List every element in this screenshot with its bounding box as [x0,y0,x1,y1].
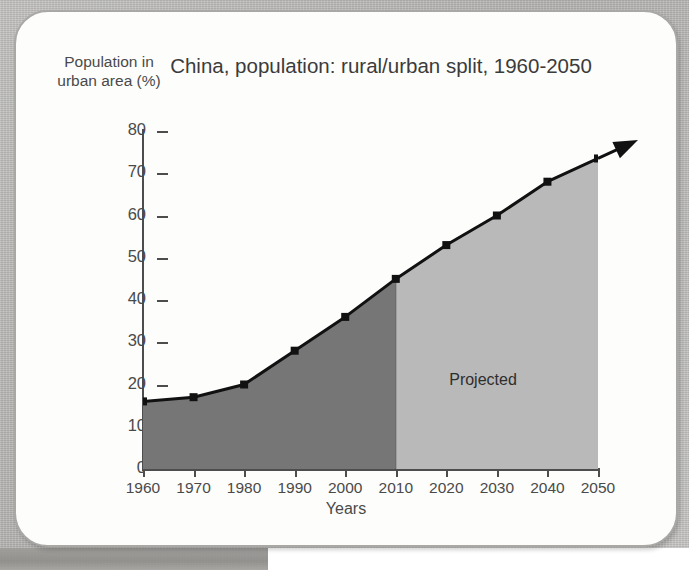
projected-area-fill [396,158,598,469]
x-axis-title: Years [16,499,676,518]
y-axis-title: Population in urban area (%) [34,52,184,90]
x-tick-mark [396,468,398,477]
x-tick-mark [194,468,196,477]
data-point-2030 [493,212,501,220]
plot-area [143,131,598,469]
x-tick-label: 2020 [420,479,472,497]
data-point-2040 [543,178,551,186]
chart-card: China, population: rural/urban split, 19… [14,10,678,547]
x-tick-mark [143,468,145,477]
page-bottom-band-right [268,548,689,570]
y-tick-mark [157,469,168,471]
x-tick-mark [598,468,600,477]
x-tick-mark [446,468,448,477]
area-chart-svg [143,131,598,469]
trend-arrow-icon [591,95,661,165]
x-tick-label: 1980 [218,479,270,497]
chart-figure: China, population: rural/urban split, 19… [16,12,676,545]
x-tick-label: 1960 [117,479,169,497]
x-tick-label: 2040 [521,479,573,497]
x-tick-mark [547,468,549,477]
data-point-2000 [341,313,349,321]
data-point-1970 [190,393,198,401]
x-tick-label: 2050 [572,479,624,497]
data-point-2010 [392,275,400,283]
x-tick-label: 1970 [168,479,220,497]
projected-region-label: Projected [418,371,548,389]
x-tick-label: 2030 [471,479,523,497]
data-point-1960 [143,397,147,405]
data-point-1990 [291,347,299,355]
chart-title: China, population: rural/urban split, 19… [166,52,596,80]
x-tick-mark [295,468,297,477]
x-tick-mark [244,468,246,477]
x-tick-label: 1990 [269,479,321,497]
data-point-1980 [240,381,248,389]
x-tick-mark [497,468,499,477]
y-tick-0: 0 [16,469,168,470]
x-tick-label: 2000 [319,479,371,497]
data-point-2020 [442,241,450,249]
x-tick-mark [345,468,347,477]
x-tick-label: 2010 [370,479,422,497]
